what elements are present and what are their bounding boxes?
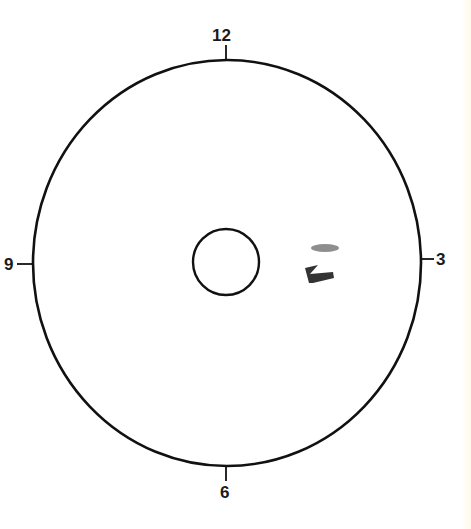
label-12: 12 — [212, 27, 231, 44]
label-6: 6 — [220, 484, 229, 501]
clock-diagram — [0, 0, 471, 529]
inner-circle — [193, 229, 259, 295]
label-9: 9 — [4, 256, 13, 273]
smudge-mark — [311, 244, 339, 252]
arrow-mark — [305, 265, 334, 283]
label-3: 3 — [436, 251, 445, 268]
outer-ring — [33, 60, 421, 466]
